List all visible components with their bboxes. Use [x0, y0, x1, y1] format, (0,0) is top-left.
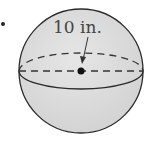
radius-label: 10 in.	[53, 17, 102, 37]
bullet-marker	[1, 22, 5, 26]
center-point	[78, 68, 85, 75]
sphere-diagram: 10 in.	[0, 0, 152, 150]
